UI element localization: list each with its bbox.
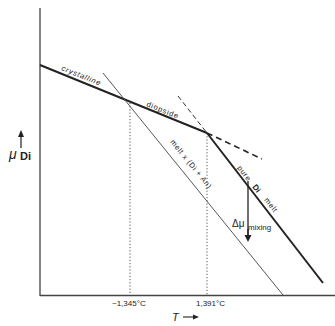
chemical-potential-diagram: μ Di ~1,345°C 1,391°C T crystalline diop… [0,0,335,326]
x-tick-1391: 1,391°C [196,299,225,308]
delta-mu-subscript: mixing [248,223,271,232]
delta-mu-arrowhead [245,235,252,242]
x-label-arrow-head [193,315,199,320]
pure-di-melt-line [207,133,323,283]
y-axis-subscript: Di [20,150,31,162]
crystalline-diopside-line [40,65,207,133]
crystalline-extension-dashed [207,133,262,159]
y-axis-label: μ [8,146,17,162]
label-melt-mixture: melt x (Di + An) [168,138,213,191]
label-pure-melt: melt [262,196,279,215]
y-label-arrow-head [18,130,24,137]
delta-mu-label: Δμ [232,218,245,229]
x-tick-1345: ~1,345°C [112,299,146,308]
x-axis-label: T [172,311,180,323]
